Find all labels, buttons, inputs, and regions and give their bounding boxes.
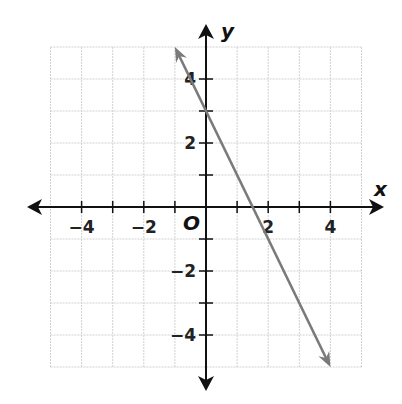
x-tick-label: 4 xyxy=(324,217,336,237)
coordinate-plane: −4−22442−2−4xyO xyxy=(0,0,402,404)
x-tick-label: −2 xyxy=(131,217,157,237)
x-tick-label: 2 xyxy=(262,217,274,237)
y-tick-label: −2 xyxy=(170,261,196,281)
y-axis-label: y xyxy=(221,19,235,43)
x-axis-label: x xyxy=(373,177,388,201)
y-tick-label: −4 xyxy=(170,325,196,345)
y-tick-label: 2 xyxy=(184,133,196,153)
x-tick-label: −4 xyxy=(69,217,95,237)
origin-label: O xyxy=(183,211,200,235)
